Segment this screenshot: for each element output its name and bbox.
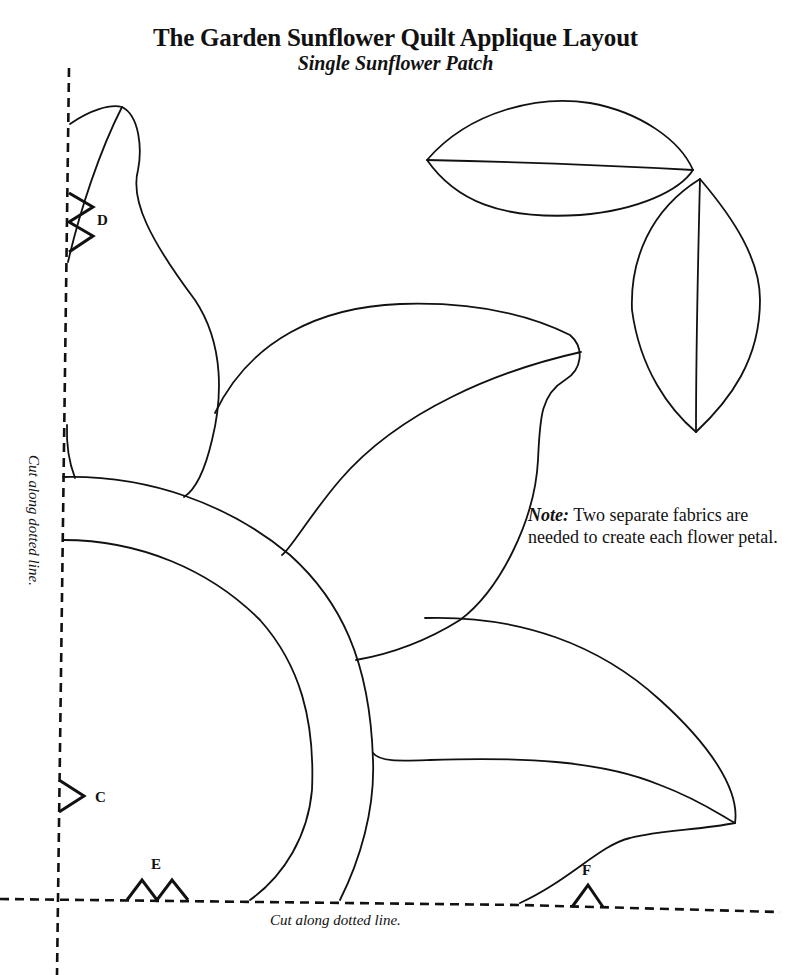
notch-e bbox=[127, 880, 188, 900]
left-cut-line bbox=[57, 68, 69, 975]
leaf-piece-vertical bbox=[632, 179, 760, 432]
bottom-cut-line bbox=[0, 899, 780, 912]
mark-c: C bbox=[95, 789, 106, 806]
mark-d: D bbox=[97, 212, 108, 229]
cut-instruction-left: Cut along dotted line. bbox=[25, 455, 42, 586]
leaf-piece-horizontal bbox=[427, 101, 693, 216]
note-label: Note: bbox=[528, 505, 569, 525]
applique-pattern bbox=[0, 0, 791, 975]
petal-lower-right bbox=[373, 618, 736, 903]
mark-e: E bbox=[151, 856, 161, 873]
mark-f: F bbox=[582, 862, 591, 879]
petal-top-left bbox=[67, 106, 219, 497]
flower-center-ring bbox=[63, 477, 373, 900]
notch-f bbox=[572, 885, 603, 907]
cut-instruction-bottom: Cut along dotted line. bbox=[270, 912, 401, 929]
petal-upper-right bbox=[215, 304, 581, 660]
notch-c bbox=[59, 780, 84, 812]
note-block: Note: Two separate fabrics are needed to… bbox=[528, 504, 788, 548]
